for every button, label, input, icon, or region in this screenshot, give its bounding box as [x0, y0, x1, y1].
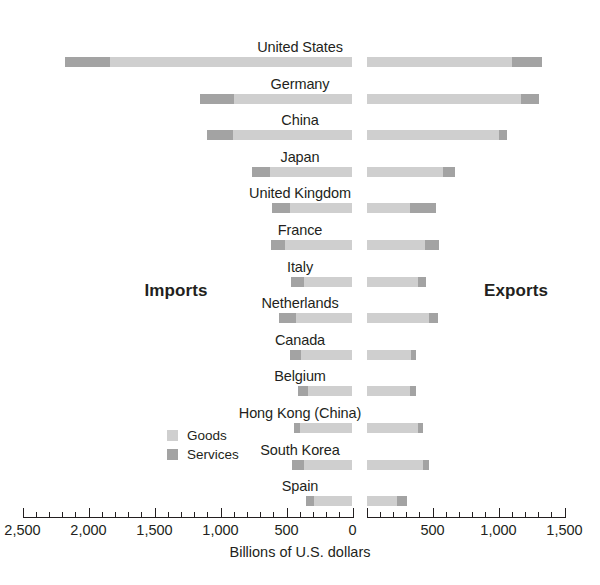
chart-row: France: [0, 222, 600, 252]
exports-bar[interactable]: [367, 57, 543, 67]
axis-tick-exports-1100: [512, 512, 513, 518]
exports-goods-segment[interactable]: [367, 240, 425, 250]
imports-bar[interactable]: [291, 277, 352, 287]
row-label: Canada: [0, 332, 600, 348]
axis-tick-exports-800: [472, 512, 473, 518]
axis-tick-imports-400: [300, 512, 301, 518]
axis-tick-exports-700: [459, 512, 460, 518]
exports-services-segment[interactable]: [429, 313, 438, 323]
exports-services-segment[interactable]: [423, 460, 429, 470]
axis-tick-exports-400: [419, 512, 420, 518]
exports-services-segment[interactable]: [425, 240, 440, 250]
exports-bar[interactable]: [367, 167, 455, 177]
imports-services-segment[interactable]: [271, 240, 286, 250]
imports-services-segment[interactable]: [298, 386, 308, 396]
legend-label: Goods: [187, 427, 227, 444]
exports-goods-segment[interactable]: [367, 57, 512, 67]
legend-item[interactable]: Goods: [167, 427, 307, 444]
imports-services-segment[interactable]: [252, 167, 270, 177]
exports-goods-segment[interactable]: [367, 94, 521, 104]
exports-services-segment[interactable]: [410, 203, 436, 213]
exports-bar[interactable]: [367, 350, 417, 360]
imports-services-segment[interactable]: [279, 313, 296, 323]
exports-bar[interactable]: [367, 386, 417, 396]
axis-tick-imports-1100: [207, 512, 208, 518]
imports-goods-segment[interactable]: [304, 460, 353, 470]
exports-bar[interactable]: [367, 423, 424, 433]
legend-swatch-icon: [167, 430, 178, 441]
axis-tick-exports-600: [446, 512, 447, 518]
legend-swatch-icon: [167, 449, 178, 460]
axis-tick-label: 1,500: [136, 521, 172, 539]
chart-row: Belgium: [0, 368, 600, 398]
imports-services-segment[interactable]: [272, 203, 290, 213]
axis-tick-imports-100: [339, 512, 340, 518]
exports-bar[interactable]: [367, 313, 438, 323]
imports-bar[interactable]: [65, 57, 352, 67]
exports-bar[interactable]: [367, 277, 426, 287]
exports-bar[interactable]: [367, 460, 429, 470]
imports-goods-segment[interactable]: [234, 94, 353, 104]
exports-goods-segment[interactable]: [367, 423, 418, 433]
exports-services-segment[interactable]: [512, 57, 542, 67]
imports-bar[interactable]: [298, 386, 352, 396]
imports-bar[interactable]: [271, 240, 353, 250]
row-bars: [0, 386, 600, 396]
axis-tick-exports-200: [393, 512, 394, 518]
axis-tick-label: 1,000: [202, 521, 238, 539]
imports-services-segment[interactable]: [200, 94, 234, 104]
imports-goods-segment[interactable]: [304, 277, 353, 287]
exports-goods-segment[interactable]: [367, 130, 499, 140]
imports-services-segment[interactable]: [65, 57, 110, 67]
imports-goods-segment[interactable]: [301, 350, 352, 360]
imports-goods-segment[interactable]: [285, 240, 352, 250]
exports-goods-segment[interactable]: [367, 386, 411, 396]
imports-goods-segment[interactable]: [270, 167, 353, 177]
imports-services-segment[interactable]: [291, 277, 304, 287]
exports-goods-segment[interactable]: [367, 167, 444, 177]
exports-axis-line: [367, 517, 565, 518]
exports-goods-segment[interactable]: [367, 203, 411, 213]
imports-services-segment[interactable]: [207, 130, 233, 140]
exports-bar[interactable]: [367, 130, 508, 140]
axis-tick-imports-1600: [141, 512, 142, 518]
row-label: United Kingdom: [0, 185, 600, 201]
chart-row: Germany: [0, 76, 600, 106]
imports-goods-segment[interactable]: [300, 423, 352, 433]
imports-goods-segment[interactable]: [110, 57, 352, 67]
exports-bar[interactable]: [367, 203, 437, 213]
imports-goods-segment[interactable]: [233, 130, 352, 140]
imports-goods-segment[interactable]: [290, 203, 353, 213]
exports-services-segment[interactable]: [410, 386, 416, 396]
axis-tick-label: 500: [420, 521, 444, 539]
exports-goods-segment[interactable]: [367, 350, 412, 360]
imports-bar[interactable]: [272, 203, 353, 213]
exports-services-segment[interactable]: [418, 277, 426, 287]
row-label: Hong Kong (China): [0, 405, 600, 421]
row-label: Italy: [0, 259, 600, 275]
imports-bar[interactable]: [279, 313, 352, 323]
imports-bar[interactable]: [290, 350, 352, 360]
exports-goods-segment[interactable]: [367, 460, 423, 470]
exports-services-segment[interactable]: [418, 423, 423, 433]
exports-bar[interactable]: [367, 240, 440, 250]
exports-goods-segment[interactable]: [367, 313, 429, 323]
imports-goods-segment[interactable]: [308, 386, 352, 396]
imports-bar[interactable]: [200, 94, 352, 104]
trade-diverging-bar-chart: United StatesGermanyChinaJapanUnited Kin…: [0, 0, 600, 585]
axis-tick-imports-0: [353, 508, 354, 518]
exports-bar[interactable]: [367, 94, 540, 104]
exports-services-segment[interactable]: [443, 167, 455, 177]
exports-services-segment[interactable]: [411, 350, 416, 360]
imports-bar[interactable]: [207, 130, 353, 140]
axis-tick-exports-1400: [551, 512, 552, 518]
legend-item[interactable]: Services: [167, 446, 307, 463]
imports-services-segment[interactable]: [290, 350, 301, 360]
axis-tick-exports-900: [485, 512, 486, 518]
axis-tick-imports-800: [247, 512, 248, 518]
exports-services-segment[interactable]: [521, 94, 539, 104]
exports-goods-segment[interactable]: [367, 277, 418, 287]
imports-bar[interactable]: [252, 167, 352, 177]
exports-services-segment[interactable]: [499, 130, 508, 140]
imports-goods-segment[interactable]: [296, 313, 352, 323]
